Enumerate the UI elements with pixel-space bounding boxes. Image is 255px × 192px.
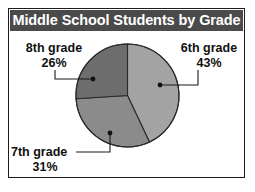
plot-area: 6th grade 43% 8th grade 26% 7th grade 31… [0, 0, 255, 192]
slice-label-8th-grade-percent: 26% [13, 56, 95, 71]
leader-dot-8th-grade [91, 77, 96, 82]
leader-dot-6th-grade [158, 83, 163, 88]
slice-label-7th-grade-percent: 31% [11, 160, 79, 175]
pie-chart-figure: Middle School Students by Grade 6th grad… [0, 0, 255, 192]
slice-label-7th-grade-name: 7th grade [11, 145, 67, 159]
slice-label-7th-grade: 7th grade 31% [11, 145, 89, 176]
slice-label-6th-grade-name: 6th grade [181, 41, 237, 55]
slice-label-6th-grade-percent: 43% [171, 56, 247, 71]
slice-label-8th-grade: 8th grade 26% [13, 41, 95, 72]
slice-label-6th-grade: 6th grade 43% [171, 41, 247, 72]
leader-dot-7th-grade [108, 131, 113, 136]
slice-label-8th-grade-name: 8th grade [26, 41, 82, 55]
